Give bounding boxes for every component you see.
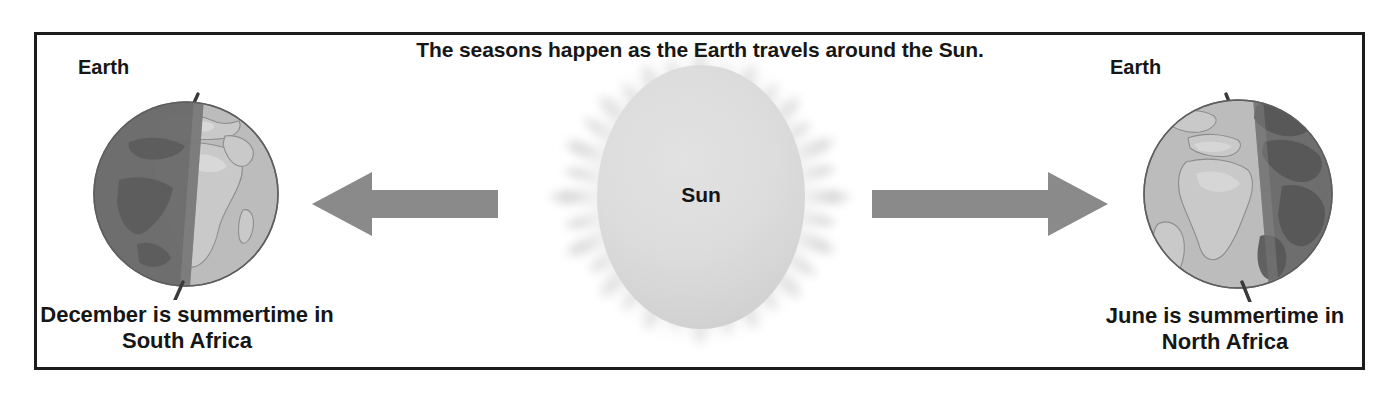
earth-caption-left: December is summertime in South Africa [22, 302, 352, 354]
earth-caption-left-line1: December is summertime in [22, 302, 352, 328]
diagram-page: The seasons happen as the Earth travels … [0, 0, 1400, 393]
orbit-arrow-right-icon [872, 168, 1108, 240]
sun-label: Sun [597, 183, 805, 207]
sun-group: Sun [495, 35, 905, 365]
earth-globe-right-icon [1142, 86, 1334, 302]
earth-caption-right: June is summertime in North Africa [1075, 303, 1375, 355]
earth-label-left: Earth [78, 56, 129, 79]
page-title: The seasons happen as the Earth travels … [0, 38, 1400, 62]
earth-label-right: Earth [1110, 56, 1161, 79]
earth-caption-right-line1: June is summertime in [1075, 303, 1375, 329]
orbit-arrow-left-icon [312, 168, 498, 240]
earth-caption-right-line2: North Africa [1075, 329, 1375, 355]
earth-caption-left-line2: South Africa [22, 328, 352, 354]
earth-globe-left-icon [93, 84, 279, 300]
